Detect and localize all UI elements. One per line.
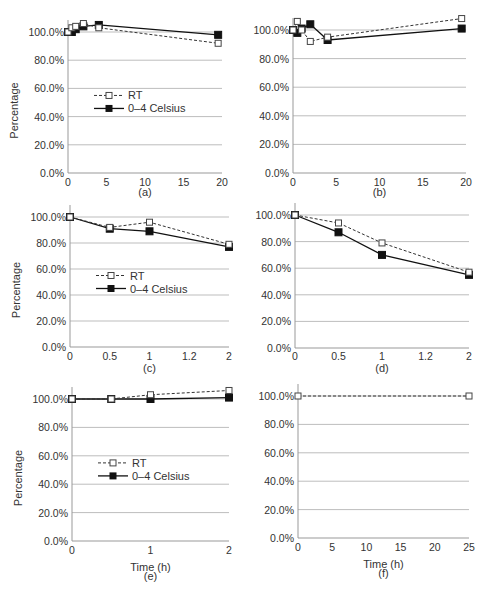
x-tick-label: 0 (65, 176, 71, 188)
legend-rt-label: RT (130, 270, 145, 282)
cold-marker-filled-square-icon (146, 228, 153, 235)
x-tick-label: 0.5 (102, 350, 117, 362)
rt-marker-open-square-icon (459, 16, 465, 22)
x-tick-label: 0 (67, 350, 73, 362)
rt-marker-open-square-icon (96, 25, 102, 31)
y-tick-label: 0.0% (40, 167, 64, 179)
y-tick-label: 80.0% (259, 53, 289, 65)
chart-panel-c: 0.0%20.0%40.0%60.0%80.0%100.0%00.511.22P… (10, 205, 233, 374)
rt-marker-open-square-icon (69, 396, 75, 402)
y-tick-label: 20.0% (36, 315, 66, 327)
y-tick-label: 40.0% (264, 475, 294, 487)
legend-rt-open-square-icon (108, 273, 114, 279)
cold-series-line (68, 25, 218, 35)
y-tick-label: 20.0% (38, 507, 68, 519)
rt-marker-open-square-icon (294, 18, 300, 24)
y-tick-label: 100.0% (255, 209, 291, 221)
y-tick-label: 20.0% (261, 315, 291, 327)
y-tick-label: 80.0% (261, 236, 291, 248)
y-tick-label: 60.0% (36, 263, 66, 275)
legend-cold-label: 0–4 Celsius (132, 470, 190, 482)
cold-marker-filled-square-icon (226, 394, 233, 401)
y-tick-label: 80.0% (36, 237, 66, 249)
y-axis-title: Percentage (8, 82, 20, 138)
y-tick-label: 100.0% (30, 211, 66, 223)
x-tick-label: 10 (361, 541, 373, 553)
x-tick-label: 1.2 (182, 350, 197, 362)
x-tick-label: 20 (216, 176, 228, 188)
rt-marker-open-square-icon (108, 396, 114, 402)
x-tick-label: 0 (69, 544, 75, 556)
legend-rt-label: RT (132, 457, 147, 469)
legend-cold-filled-square-icon (108, 285, 115, 292)
rt-marker-open-square-icon (292, 212, 298, 218)
rt-marker-open-square-icon (325, 34, 331, 40)
y-tick-label: 80.0% (38, 421, 68, 433)
y-tick-label: 60.0% (259, 81, 289, 93)
x-tick-label: 1 (379, 350, 385, 362)
y-tick-label: 40.0% (259, 110, 289, 122)
legend-cold-label: 0–4 Celsius (128, 102, 186, 114)
legend-rt-open-square-icon (106, 92, 112, 98)
legend-rt-label: RT (128, 89, 143, 101)
x-tick-label: 15 (178, 176, 190, 188)
x-tick-label: 0.5 (331, 350, 346, 362)
y-tick-label: 100.0% (253, 24, 289, 36)
rt-marker-open-square-icon (466, 393, 472, 399)
y-tick-label: 40.0% (34, 111, 64, 123)
y-tick-label: 40.0% (261, 289, 291, 301)
panel-label: (d) (375, 362, 388, 374)
y-tick-label: 0.0% (267, 342, 291, 354)
rt-marker-open-square-icon (147, 219, 153, 225)
x-tick-label: 2 (226, 544, 232, 556)
chart-panel-d: 0.0%20.0%40.0%60.0%80.0%100.0%00.511.22(… (255, 203, 472, 374)
x-tick-label: 0 (295, 541, 301, 553)
panel-label: (e) (144, 570, 157, 582)
y-tick-label: 20.0% (264, 504, 294, 516)
rt-marker-open-square-icon (295, 393, 301, 399)
legend-cold-filled-square-icon (106, 105, 113, 112)
y-tick-label: 100.0% (258, 390, 294, 402)
y-axis-title: Percentage (10, 262, 22, 318)
legend-cold-label: 0–4 Celsius (130, 283, 188, 295)
y-tick-label: 60.0% (264, 447, 294, 459)
panel-label: (f) (378, 567, 388, 579)
rt-marker-open-square-icon (336, 220, 342, 226)
y-tick-label: 60.0% (261, 262, 291, 274)
x-tick-label: 5 (333, 176, 339, 188)
rt-marker-open-square-icon (379, 240, 385, 246)
y-axis-title: Percentage (12, 450, 24, 506)
x-tick-label: 15 (395, 541, 407, 553)
y-tick-label: 0.0% (44, 535, 68, 547)
x-tick-label: 20 (460, 176, 472, 188)
y-tick-label: 100.0% (32, 393, 68, 405)
rt-marker-open-square-icon (299, 27, 305, 33)
x-tick-label: 1 (148, 544, 154, 556)
y-tick-label: 20.0% (259, 138, 289, 150)
y-tick-label: 80.0% (34, 54, 64, 66)
rt-marker-open-square-icon (226, 241, 232, 247)
y-tick-label: 80.0% (264, 418, 294, 430)
cold-series-line (293, 24, 462, 40)
y-tick-label: 40.0% (38, 478, 68, 490)
rt-marker-open-square-icon (215, 40, 221, 46)
cold-marker-filled-square-icon (307, 21, 314, 28)
rt-marker-open-square-icon (107, 224, 113, 230)
x-tick-label: 1 (147, 350, 153, 362)
y-tick-label: 100.0% (28, 26, 64, 38)
cold-marker-filled-square-icon (335, 229, 342, 236)
x-tick-label: 15 (417, 176, 429, 188)
rt-marker-open-square-icon (148, 392, 154, 398)
y-tick-label: 60.0% (34, 82, 64, 94)
rt-marker-open-square-icon (226, 387, 232, 393)
x-tick-label: 1.2 (418, 350, 433, 362)
rt-marker-open-square-icon (67, 214, 73, 220)
x-tick-label: 0 (292, 350, 298, 362)
cold-marker-filled-square-icon (458, 25, 465, 32)
legend-cold-filled-square-icon (110, 472, 117, 479)
legend-rt-open-square-icon (110, 460, 116, 466)
chart-panel-a: 0.0%20.0%40.0%60.0%80.0%100.0%05101520Pe… (8, 20, 228, 198)
x-tick-label: 5 (104, 176, 110, 188)
y-tick-label: 0.0% (265, 167, 289, 179)
y-tick-label: 0.0% (42, 341, 66, 353)
